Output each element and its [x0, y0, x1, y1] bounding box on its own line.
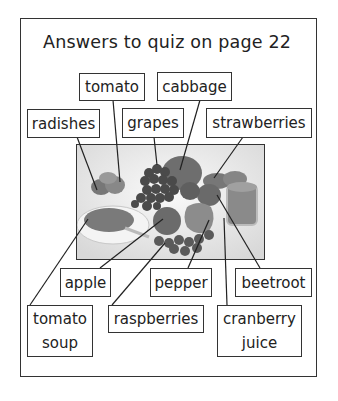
label-radishes: radishes — [27, 109, 100, 138]
label-apple: apple — [60, 268, 111, 297]
label-cranberry-juice-line2: juice — [242, 331, 277, 355]
label-pepper: pepper — [150, 268, 212, 297]
label-strawberries: strawberries — [206, 108, 312, 138]
label-cranberry-juice-line1: cranberry — [223, 307, 296, 331]
label-grapes: grapes — [122, 108, 184, 138]
food-photo — [76, 144, 265, 260]
label-tomato: tomato — [79, 73, 145, 101]
label-tomato-soup-line2: soup — [42, 331, 78, 355]
label-tomato-soup-line1: tomato — [33, 307, 87, 331]
food-photo-illustration — [77, 145, 265, 260]
label-cranberry-juice: cranberry juice — [217, 305, 302, 357]
label-beetroot: beetroot — [235, 268, 312, 297]
label-raspberries: raspberries — [108, 305, 204, 333]
label-cabbage: cabbage — [157, 72, 232, 101]
label-tomato-soup: tomato soup — [27, 305, 93, 357]
page-title: Answers to quiz on page 22 — [43, 32, 291, 52]
